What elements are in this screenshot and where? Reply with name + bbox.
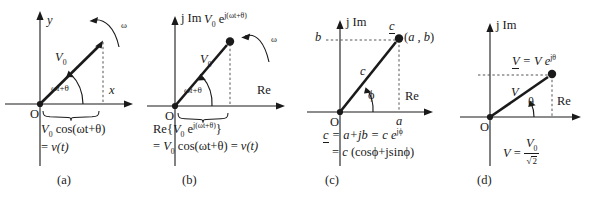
phasor-vector xyxy=(490,77,548,117)
axis-x-arrowhead xyxy=(124,100,133,107)
tip-label-equals: = V e xyxy=(519,54,550,68)
panel-c: j Im Re O b a c (a , b) c ϕ c = a+jb = c… xyxy=(293,0,440,200)
phasor-tip-dot xyxy=(226,37,234,45)
eq2-t: (t) xyxy=(246,139,258,153)
eq1-V: V xyxy=(173,122,181,136)
rotation-label: ω xyxy=(121,21,127,30)
rms-num-V: V xyxy=(526,136,534,150)
vector-label: V0 xyxy=(55,51,67,66)
angle-arc xyxy=(202,77,212,106)
panel-c-caption: (c) xyxy=(325,174,339,187)
axis-real-label: Re xyxy=(405,90,419,103)
equation-line-1: Re{V0 ej(ωt+θ)} xyxy=(153,122,222,138)
angle-arc xyxy=(70,74,83,104)
phasor-diagram-figure: y x O V0 ωt+θ ω V0 cos(ωt+θ) = v(t) (a) … xyxy=(0,0,591,200)
vector-label-sub: 0 xyxy=(63,58,67,67)
origin-label: O xyxy=(30,108,39,121)
axis-x-label: x xyxy=(109,84,115,97)
vector-label-sub: 0 xyxy=(208,60,212,69)
eq1-body: = a+jb = c e xyxy=(329,128,397,142)
axis-imag-label: j Im xyxy=(346,16,366,29)
rms-den-value: 2 xyxy=(531,156,537,166)
axis-imag-arrowhead xyxy=(486,23,493,32)
vector-label-V: V xyxy=(55,50,63,64)
rms-denominator: √2 xyxy=(524,153,540,167)
equation-line-2: = v(t) xyxy=(41,141,69,154)
real-tick-label: a xyxy=(396,115,402,128)
equation-line-1: V0 cos(ωt+θ) xyxy=(41,123,105,138)
projection-brace xyxy=(43,111,99,121)
axis-imag-arrowhead xyxy=(171,16,178,25)
axis-real-arrowhead xyxy=(276,102,285,109)
tip-label-exponent: j(ωt+θ) xyxy=(224,11,247,20)
eq1-cos: cos(ωt+θ) xyxy=(53,122,106,136)
vector-magnitude-label: V xyxy=(511,86,519,99)
rotation-label: ω xyxy=(271,35,277,44)
panel-a: y x O V0 ωt+θ ω V0 cos(ωt+θ) = v(t) (a) xyxy=(0,0,145,200)
rms-equation: V = V0√2 xyxy=(503,138,539,168)
angle-label: ωt+θ xyxy=(51,84,69,93)
panel-b-graphics xyxy=(145,0,293,200)
complex-vector-tip-label: c xyxy=(389,20,395,34)
point-close-paren: ) xyxy=(430,30,434,44)
origin-label: O xyxy=(480,121,489,134)
eq1-re-open: Re{ xyxy=(153,122,173,136)
point-comma: , xyxy=(414,30,423,44)
axis-imag-label: j Im xyxy=(181,12,201,25)
eq2-cos: cos(ωt+θ) = xyxy=(175,139,241,153)
rotation-arc-arrowhead xyxy=(89,17,98,24)
eq2-equals: = xyxy=(41,140,51,154)
axis-imag-arrowhead xyxy=(336,20,343,29)
tip-label: V0 ej(ωt+θ) xyxy=(204,12,247,28)
angle-label: ωt+θ xyxy=(184,86,202,95)
panel-a-graphics xyxy=(0,0,145,200)
eq2-t: (t) xyxy=(57,140,69,154)
eq2-equals: = xyxy=(332,145,342,159)
vector-magnitude-label: c xyxy=(360,65,366,78)
phasor-tip-dot xyxy=(548,70,556,78)
rotation-arc xyxy=(93,20,119,47)
axis-imag-label: j Im xyxy=(496,19,516,32)
axis-real-arrowhead xyxy=(424,108,433,115)
point-coordinates-label: (a , b) xyxy=(404,31,434,44)
equation-line-1: c = a+jb = c ejϕ xyxy=(323,128,403,142)
axis-y-arrowhead xyxy=(36,11,43,20)
tip-label-exponent: jθ xyxy=(550,53,556,62)
origin-label: O xyxy=(330,116,339,129)
origin-label: O xyxy=(165,110,174,123)
panel-d: j Im Re O V = V ejθ V θ V = V0√2 (d) xyxy=(440,0,591,200)
phasor-tip-dot xyxy=(395,34,403,42)
vector-label-V: V xyxy=(200,52,208,66)
angle-label-theta: +θ xyxy=(59,83,68,93)
axis-real-label: Re xyxy=(257,84,271,97)
rms-eq-V: V xyxy=(503,146,511,160)
rotation-arc-arrowhead xyxy=(241,33,250,40)
panel-b-caption: (b) xyxy=(182,174,197,187)
vector-label: V0 xyxy=(200,53,212,68)
equation-line-2: = 0V0 cos(ωt+θ) = v(t) xyxy=(153,140,258,155)
eq1-V: V xyxy=(41,122,49,136)
eq1-exponent: jϕ xyxy=(397,127,403,136)
angle-label: ϕ xyxy=(368,89,375,102)
rms-eq-equals: = xyxy=(511,146,524,160)
rms-fraction: V0√2 xyxy=(524,137,540,167)
imag-tick-label: b xyxy=(315,31,321,44)
eq1-re-close: } xyxy=(216,122,222,136)
panel-d-caption: (d) xyxy=(477,174,492,187)
rms-numerator: V0 xyxy=(524,137,540,153)
tip-label-e: e xyxy=(216,12,225,26)
eq1-exponent: j(ωt+θ) xyxy=(193,121,216,130)
eq2-V: V xyxy=(163,139,171,153)
eq2-pre: = 0 xyxy=(153,139,163,153)
rms-num-sub: 0 xyxy=(534,144,538,153)
angle-label: θ xyxy=(528,96,534,109)
eq2-trig: (cosϕ+jsinϕ) xyxy=(348,145,414,159)
eq1-e: e xyxy=(184,122,193,136)
panel-a-caption: (a) xyxy=(57,174,71,187)
phasor-definition-label: V = V ejθ xyxy=(512,54,556,68)
panel-b: j Im Re O V0 ωt+θ ω V0 ej(ωt+θ) Re{V0 ej… xyxy=(145,0,293,200)
tip-label-V: V xyxy=(204,12,212,26)
angle-label-theta: +θ xyxy=(192,85,201,95)
axis-real-arrowhead xyxy=(572,113,581,120)
axis-y-label: y xyxy=(47,14,53,27)
